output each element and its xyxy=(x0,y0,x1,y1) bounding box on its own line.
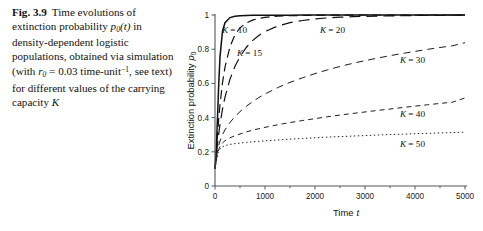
curve-k50 xyxy=(215,132,465,169)
y-tick-label: 0.2 xyxy=(198,148,210,157)
curve-label-group: K= 10K= 15K= 20K= 30K= 40K= 50 xyxy=(221,25,425,149)
curve-label-k40: K= 40 xyxy=(399,109,425,119)
x-tick-label: 1000 xyxy=(256,192,275,201)
y-tick-label: 0.4 xyxy=(198,114,210,123)
caption-line-2a: extinction probability xyxy=(12,20,108,32)
curve-label-k10: K= 10 xyxy=(221,25,247,35)
x-tick-label: 4000 xyxy=(406,192,425,201)
curve-k20 xyxy=(215,15,465,169)
x-tick-label: 3000 xyxy=(356,192,375,201)
y-axis-title: Extinction probabilityp0 xyxy=(185,51,197,149)
curve-k40 xyxy=(215,98,465,169)
figure-caption: Fig. 3.9Time evolutions of extinction pr… xyxy=(12,6,180,109)
curve-label-k20: K= 20 xyxy=(319,25,345,35)
y-tick-label: 0.8 xyxy=(198,45,210,54)
curve-group xyxy=(215,15,465,169)
caption-of-t: (t) xyxy=(120,20,130,32)
y-tick-label: 1 xyxy=(204,11,209,20)
curve-label-k50: K= 50 xyxy=(399,139,425,149)
curve-k30 xyxy=(215,43,465,169)
x-tick-label: 0 xyxy=(213,192,218,201)
y-tick-label: 0.6 xyxy=(198,79,210,88)
figure-number: Fig. 3.9 xyxy=(12,6,47,18)
caption-var-K: K xyxy=(52,96,59,108)
caption-sub-r0: 0 xyxy=(43,71,47,80)
caption-line-7: different values of the xyxy=(28,82,125,94)
caption-line-4: populations, obtained via xyxy=(12,50,124,62)
curve-k15 xyxy=(215,15,465,169)
caption-sup-minus1: −1 xyxy=(121,65,129,74)
extinction-probability-chart: 00.20.40.60.81010002000300040005000 K= 1… xyxy=(183,0,483,231)
x-tick-label: 5000 xyxy=(456,192,475,201)
y-tick-label: 0 xyxy=(204,182,209,191)
axis-group xyxy=(212,14,468,190)
figure-container: Fig. 3.9Time evolutions of extinction pr… xyxy=(0,0,483,231)
curve-label-k15: K= 15 xyxy=(236,48,262,58)
x-axis-title: Timet xyxy=(333,207,359,218)
tick-label-group: 00.20.40.60.81010002000300040005000 xyxy=(198,11,475,201)
caption-line-6a: time-unit xyxy=(80,66,121,78)
chart-plot-area: 00.20.40.60.81010002000300040005000 K= 1… xyxy=(183,0,483,231)
caption-line-1: Time evolutions of xyxy=(52,6,136,18)
curve-label-k30: K= 30 xyxy=(399,55,425,65)
x-tick-label: 2000 xyxy=(306,192,325,201)
curve-k10 xyxy=(215,15,465,169)
caption-line-5b: = 0.03 xyxy=(49,66,77,78)
